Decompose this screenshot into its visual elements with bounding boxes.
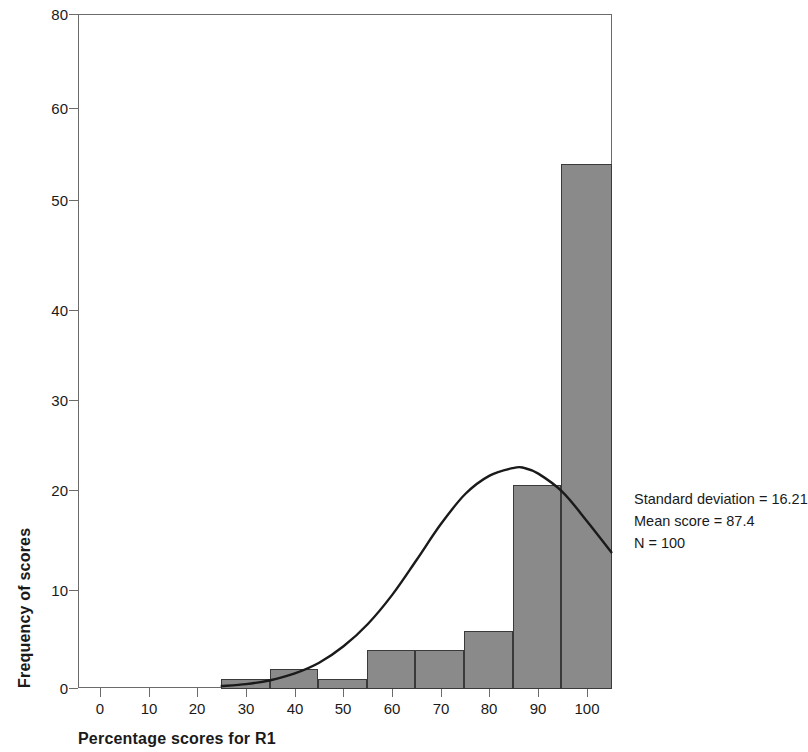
y-tick-label: 40 (22, 303, 68, 318)
x-tick-mark (100, 688, 101, 697)
y-axis-title: Frequency of scores (16, 528, 34, 688)
x-tick-label: 100 (567, 701, 607, 716)
x-tick-label: 0 (80, 701, 120, 716)
bar-95-105 (561, 164, 612, 689)
mean-score-text: Mean score = 87.4 (634, 510, 808, 532)
x-tick-mark (489, 688, 490, 697)
y-tick-mark (69, 688, 78, 689)
x-tick-mark (197, 688, 198, 697)
y-tick-label: 60 (22, 101, 68, 116)
x-tick-label: 60 (372, 701, 412, 716)
y-tick-mark (69, 108, 78, 109)
y-tick-mark (69, 200, 78, 201)
bar-25-35 (221, 679, 270, 689)
x-tick-label: 50 (323, 701, 363, 716)
y-tick-mark (69, 590, 78, 591)
x-tick-label: 40 (275, 701, 315, 716)
bar-35-45 (270, 669, 318, 689)
x-tick-mark (392, 688, 393, 697)
bar-85-95 (513, 485, 561, 689)
x-tick-mark (441, 688, 442, 697)
y-tick-mark (69, 14, 78, 15)
y-tick-label: 20 (22, 483, 68, 498)
bar-45-55 (318, 679, 367, 689)
x-tick-label: 10 (129, 701, 169, 716)
bar-75-85 (464, 631, 513, 689)
x-axis-title: Percentage scores for R1 (78, 730, 276, 748)
x-tick-label: 70 (421, 701, 461, 716)
y-tick-mark (69, 310, 78, 311)
y-tick-mark (69, 490, 78, 491)
x-tick-mark (343, 688, 344, 697)
x-tick-mark (587, 688, 588, 697)
x-tick-mark (538, 688, 539, 697)
x-tick-label: 80 (469, 701, 509, 716)
x-tick-mark (295, 688, 296, 697)
x-tick-label: 20 (177, 701, 217, 716)
x-tick-mark (149, 688, 150, 697)
y-tick-label: 30 (22, 393, 68, 408)
x-tick-mark (246, 688, 247, 697)
x-tick-label: 30 (226, 701, 266, 716)
x-tick-label: 90 (518, 701, 558, 716)
sample-size-text: N = 100 (634, 532, 808, 554)
statistics-annotation: Standard deviation = 16.21 Mean score = … (634, 488, 808, 554)
y-tick-label: 80 (22, 7, 68, 22)
y-tick-label: 50 (22, 193, 68, 208)
bar-65-75 (415, 650, 464, 689)
standard-deviation-text: Standard deviation = 16.21 (634, 488, 808, 510)
bar-55-65 (367, 650, 415, 689)
y-tick-mark (69, 400, 78, 401)
